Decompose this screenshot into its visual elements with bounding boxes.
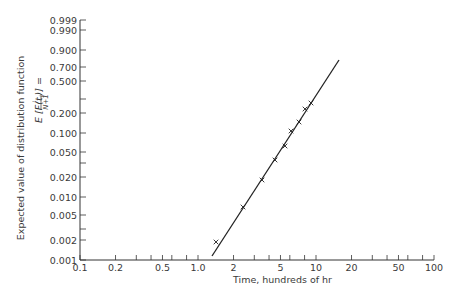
x-marker-icon xyxy=(214,240,219,245)
x-tick-label: 5 xyxy=(277,262,283,273)
x-tick-label: 0.5 xyxy=(155,262,170,273)
x-tick-label: 1.0 xyxy=(190,262,205,273)
x-tick-label: 10 xyxy=(310,262,322,273)
y-tick-label: 0.900 xyxy=(50,45,77,56)
fraction-numerator: i xyxy=(32,101,40,103)
y-tick-label: 0.005 xyxy=(50,210,77,221)
fraction-denominator: N+1 xyxy=(42,94,50,110)
x-tick-label: 0.1 xyxy=(72,262,87,273)
x-tick-label: 0.2 xyxy=(108,262,123,273)
y-tick-label: 0.500 xyxy=(50,76,77,87)
y-axis: 0.9990.9900.9000.7000.5000.2000.1000.050… xyxy=(50,15,86,266)
y-tick-label: 0.990 xyxy=(50,25,77,36)
x-tick-label: 2 xyxy=(230,262,236,273)
data-series xyxy=(212,60,339,256)
fit-line xyxy=(212,60,339,256)
y-axis-label: Expected value of distribution function xyxy=(15,56,26,240)
x-axis-label: Time, hundreds of hr xyxy=(232,274,332,285)
formula-mid: )] = xyxy=(33,77,44,96)
x-tick-label: 100 xyxy=(425,262,443,273)
y-tick-label: 0.002 xyxy=(50,235,77,246)
y-tick-label: 0.200 xyxy=(50,108,77,119)
y-axis-label-line1: Expected value of distribution function xyxy=(15,56,26,240)
y-tick-label: 0.100 xyxy=(50,128,77,139)
x-tick-label: 50 xyxy=(392,262,404,273)
probability-plot: 0.9990.9900.9000.7000.5000.2000.1000.050… xyxy=(0,0,455,296)
x-axis: 0.10.20.51.025102050100 xyxy=(72,255,443,273)
y-tick-label: 0.700 xyxy=(50,62,77,73)
y-tick-label: 0.010 xyxy=(50,192,77,203)
x-tick-label: 20 xyxy=(345,262,357,273)
y-tick-label: 0.020 xyxy=(50,172,77,183)
y-tick-label: 0.050 xyxy=(50,147,77,158)
